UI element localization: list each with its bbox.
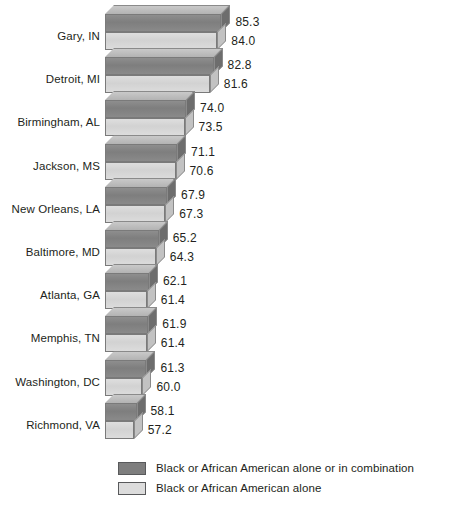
bar-value-label: 61.4 [161, 336, 185, 350]
bar-value-label: 67.3 [179, 207, 203, 221]
bar-front-face [105, 100, 186, 118]
category-label: Baltimore, MD [0, 246, 100, 258]
bar-front-face [105, 118, 185, 136]
category-label: Birmingham, AL [0, 116, 100, 128]
category-label: Gary, IN [0, 30, 100, 42]
bar-value-label: 58.1 [151, 404, 175, 418]
category-label: Jackson, MS [0, 160, 100, 172]
bar-value-label: 85.3 [235, 15, 259, 29]
bar-top-face [105, 135, 186, 144]
bar-chart: Gary, IN85.384.0Detroit, MI82.881.6Birmi… [0, 0, 476, 509]
category-label: Washington, DC [0, 376, 100, 388]
bar-top-face [105, 221, 168, 230]
bar-top-face [105, 48, 223, 57]
bar-value-label: 62.1 [163, 274, 187, 288]
legend-label: Black or African American alone [156, 482, 321, 494]
bar-front-face [105, 421, 134, 439]
bar-value-label: 70.6 [190, 164, 214, 178]
bar-front-face [105, 378, 142, 396]
bar-value-label: 60.0 [156, 380, 180, 394]
bar-front-face [105, 230, 159, 248]
bar-front-face [105, 14, 221, 32]
bar-top-face [105, 178, 176, 187]
bar-front-face [105, 162, 176, 180]
bar-front-face [105, 144, 177, 162]
bar-front-face [105, 57, 214, 75]
legend-item: Black or African American alone or in co… [118, 458, 458, 478]
bar-front-face [105, 316, 148, 334]
legend-swatch [118, 482, 146, 495]
bar-front-face [105, 334, 147, 352]
bar-value-label: 61.3 [160, 361, 184, 375]
category-label: Detroit, MI [0, 73, 100, 85]
chart-legend: Black or African American alone or in co… [118, 458, 458, 498]
bar-value-label: 64.3 [170, 250, 194, 264]
legend-item: Black or African American alone [118, 478, 458, 498]
category-label: Memphis, TN [0, 332, 100, 344]
bar-top-face [105, 5, 230, 14]
bar-value-label: 61.9 [162, 317, 186, 331]
bar-value-label: 67.9 [181, 188, 205, 202]
bar-value-label: 74.0 [200, 101, 224, 115]
legend-label: Black or African American alone or in co… [156, 462, 414, 474]
bar-value-label: 57.2 [148, 423, 172, 437]
bar-front-face [105, 403, 137, 421]
bar-value-label: 65.2 [173, 231, 197, 245]
bar-front-face [105, 187, 167, 205]
category-label: Richmond, VA [0, 419, 100, 431]
bar-value-label: 73.5 [199, 120, 223, 134]
category-label: Atlanta, GA [0, 289, 100, 301]
bar-top-face [105, 91, 195, 100]
plot-area: Gary, IN85.384.0Detroit, MI82.881.6Birmi… [0, 0, 476, 450]
bar-front-face [105, 273, 149, 291]
bar-value-label: 81.6 [224, 77, 248, 91]
bar-value-label: 84.0 [231, 34, 255, 48]
bar-value-label: 71.1 [191, 145, 215, 159]
category-label: New Orleans, LA [0, 203, 100, 215]
bar-front-face [105, 360, 146, 378]
bar-value-label: 82.8 [228, 58, 252, 72]
bar-value-label: 61.4 [161, 293, 185, 307]
legend-swatch [118, 462, 146, 475]
